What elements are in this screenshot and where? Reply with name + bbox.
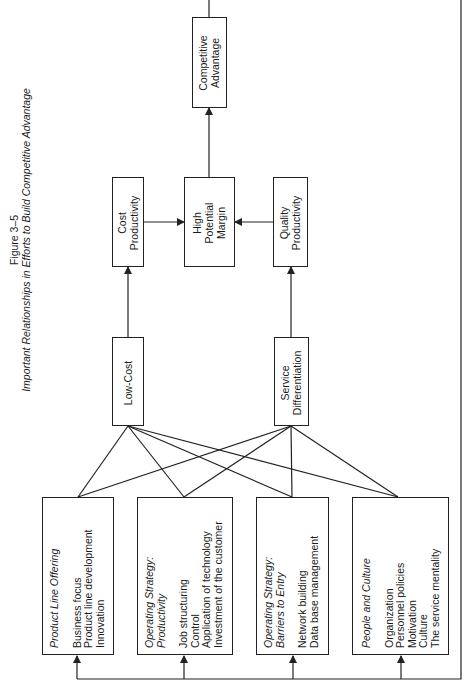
factor-operating-strategy-productivity: Operating Strategy: Productivity Job str… bbox=[137, 497, 233, 655]
figure-caption: Important Relationships in Efforts to Bu… bbox=[20, 30, 32, 450]
node-label: Productivity bbox=[290, 188, 302, 258]
factor-item: Personnel policies bbox=[395, 503, 407, 648]
node-label: Quality bbox=[278, 188, 290, 258]
factor-title: Barriers to Entry bbox=[275, 503, 287, 648]
figure-title: Figure 3–5 Important Relationships in Ef… bbox=[8, 30, 32, 450]
factor-item: Culture bbox=[418, 503, 430, 648]
node-cost-productivity: Cost Productivity bbox=[112, 177, 144, 267]
factor-item: Job structuring bbox=[178, 503, 190, 648]
factor-people-and-culture: People and Culture Organization Personne… bbox=[352, 497, 449, 655]
factor-item: Innovation bbox=[95, 503, 107, 648]
node-label: Productivity bbox=[128, 188, 140, 258]
factor-product-line-offering: Product Line Offering Business focus Pro… bbox=[42, 497, 114, 655]
node-label: High bbox=[191, 188, 203, 258]
figure-number: Figure 3–5 bbox=[8, 30, 20, 450]
node-low-cost: Low-Cost bbox=[112, 337, 144, 426]
node-label: Advantage bbox=[209, 28, 221, 98]
node-quality-productivity: Quality Productivity bbox=[273, 177, 308, 267]
factor-title: Operating Strategy: bbox=[263, 503, 275, 648]
node-label: Low-Cost bbox=[122, 348, 134, 418]
factor-item: Product line development bbox=[83, 503, 95, 648]
node-label: Margin bbox=[215, 188, 227, 258]
factor-item: Investment of the customer bbox=[213, 503, 225, 648]
factor-item: Network building bbox=[297, 503, 309, 648]
node-competitive-advantage: Competitive Advantage bbox=[192, 17, 227, 108]
node-label: Potential bbox=[203, 188, 215, 258]
node-label: Differentiation bbox=[291, 348, 303, 418]
factor-title: Productivity bbox=[156, 503, 168, 648]
node-label: Service bbox=[279, 348, 291, 418]
factor-operating-strategy-barriers: Operating Strategy: Barriers to Entry Ne… bbox=[256, 497, 329, 655]
node-label: Cost bbox=[116, 188, 128, 258]
factor-title: Operating Strategy: bbox=[144, 503, 156, 648]
factor-item: Application of technology bbox=[201, 503, 213, 648]
node-service-differentiation: Service Differentiation bbox=[274, 337, 309, 426]
factor-item: Data base management bbox=[309, 503, 321, 648]
factor-title: People and Culture bbox=[361, 503, 373, 648]
node-high-potential-margin: High Potential Margin bbox=[184, 177, 235, 267]
node-label: Competitive bbox=[197, 28, 209, 98]
factor-title: Product Line Offering bbox=[49, 503, 61, 648]
factor-item: The service mentality bbox=[430, 503, 442, 648]
